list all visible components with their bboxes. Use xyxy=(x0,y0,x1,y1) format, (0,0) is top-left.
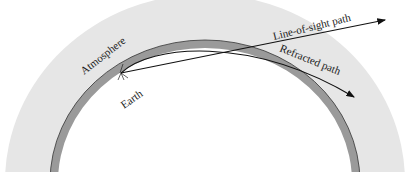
earth-label: Earth xyxy=(118,87,145,111)
atmosphere-band xyxy=(5,0,405,182)
refraction-diagram: Atmosphere Earth Line-of-sight path Refr… xyxy=(0,0,413,182)
